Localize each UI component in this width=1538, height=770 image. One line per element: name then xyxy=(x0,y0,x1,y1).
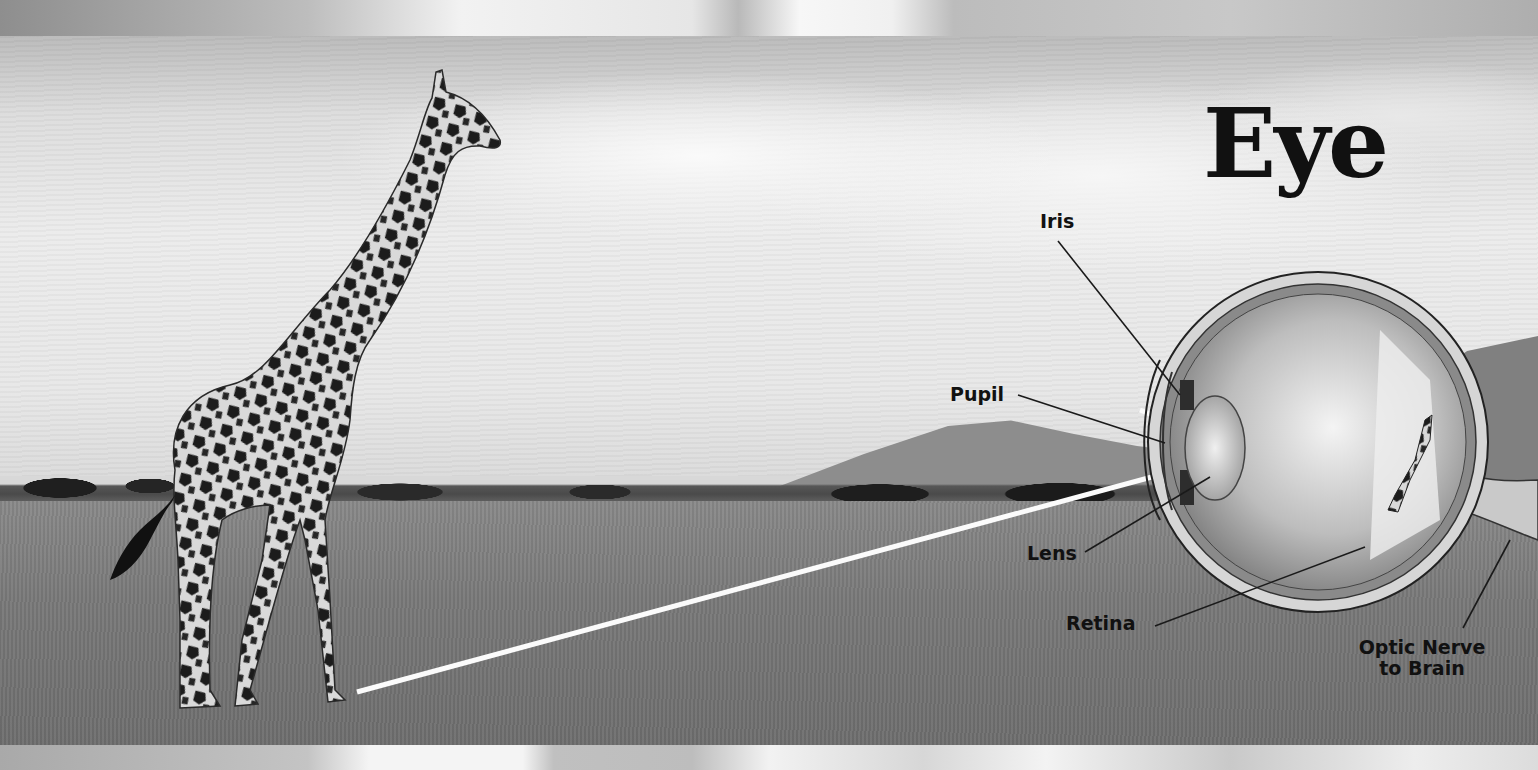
label-lens: Lens xyxy=(1027,543,1077,564)
label-optic-nerve-line1: Optic Nerve xyxy=(1342,637,1502,658)
diagram-title: Eye xyxy=(1203,96,1387,192)
pupil-leader-line xyxy=(1018,395,1165,443)
light-ray-from-feet xyxy=(357,458,1222,692)
optic-nerve-leader-line xyxy=(1463,540,1510,628)
eye-cross-section xyxy=(1144,272,1538,612)
label-pupil: Pupil xyxy=(950,384,1004,405)
giraffe-illustration xyxy=(110,70,500,708)
iris-upper xyxy=(1180,380,1194,410)
page: Eye Iris Pupil Lens Retina Optic Nerve t… xyxy=(0,0,1538,770)
label-retina: Retina xyxy=(1066,613,1135,634)
label-optic-nerve: Optic Nerve to Brain xyxy=(1342,637,1502,679)
lens-shape xyxy=(1185,396,1245,500)
iris-leader-line xyxy=(1058,241,1180,395)
label-optic-nerve-line2: to Brain xyxy=(1342,658,1502,679)
label-iris: Iris xyxy=(1040,211,1074,232)
